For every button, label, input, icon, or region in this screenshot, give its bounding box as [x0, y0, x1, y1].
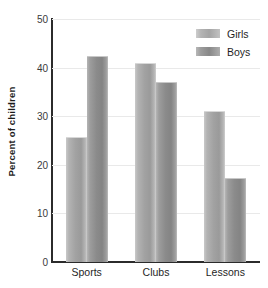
gridline	[52, 68, 260, 69]
y-tick-label: 30	[28, 111, 48, 122]
legend: Girls Boys	[196, 26, 250, 62]
y-tick-label: 20	[28, 159, 48, 170]
y-axis-label: Percent of children	[0, 0, 24, 262]
y-tick: 0	[26, 262, 48, 263]
gridline	[52, 19, 260, 20]
x-tick-label: Sports	[71, 266, 101, 278]
x-tick-label: Lessons	[206, 266, 245, 278]
legend-item-girls: Girls	[196, 26, 250, 41]
bar-boys-clubs	[156, 82, 177, 262]
legend-item-boys: Boys	[196, 44, 250, 59]
legend-swatch-boys-icon	[196, 47, 220, 56]
bar-girls-lessons	[204, 111, 225, 262]
bar-boys-lessons	[225, 178, 246, 262]
y-tick: 20	[26, 165, 48, 166]
y-tick-label: 50	[28, 14, 48, 25]
x-tick-label: Clubs	[143, 266, 170, 278]
y-tick-label: 0	[28, 257, 48, 268]
bar-girls-sports	[66, 137, 87, 262]
bar-girls-clubs	[135, 63, 156, 262]
y-axis-label-text: Percent of children	[7, 86, 18, 176]
y-tick: 50	[26, 19, 48, 20]
y-tick: 40	[26, 68, 48, 69]
bar-chart: Percent of children 01020304050 SportsCl…	[0, 0, 268, 288]
legend-label-girls: Girls	[227, 28, 249, 40]
y-tick: 30	[26, 116, 48, 117]
y-tick-label: 10	[28, 208, 48, 219]
y-tick: 10	[26, 213, 48, 214]
legend-label-boys: Boys	[227, 46, 250, 58]
legend-swatch-girls-icon	[196, 29, 220, 38]
y-tick-label: 40	[28, 62, 48, 73]
bar-boys-sports	[87, 56, 108, 262]
